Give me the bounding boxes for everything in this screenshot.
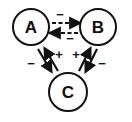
node-c: C xyxy=(49,73,87,111)
sign-b-to-c: − xyxy=(98,56,106,71)
sign-a-to-b: − xyxy=(56,7,64,22)
node-a-label: A xyxy=(25,18,37,37)
sign-c-to-a: + xyxy=(55,47,63,62)
node-b-label: B xyxy=(92,18,104,37)
sign-a-to-c: − xyxy=(27,56,35,71)
sign-b-to-a: − xyxy=(66,31,74,46)
sign-c-to-b: + xyxy=(72,47,80,62)
edge-a-to-c xyxy=(38,49,51,71)
node-a: A xyxy=(13,9,49,45)
interaction-diagram: − − − + + − A B C xyxy=(0,0,132,122)
node-c-label: C xyxy=(62,83,74,102)
node-b: B xyxy=(80,9,116,45)
